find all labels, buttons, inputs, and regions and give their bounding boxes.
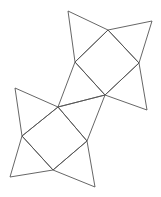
figure-background: [0, 0, 161, 197]
star-polygon-figure: [0, 0, 161, 197]
